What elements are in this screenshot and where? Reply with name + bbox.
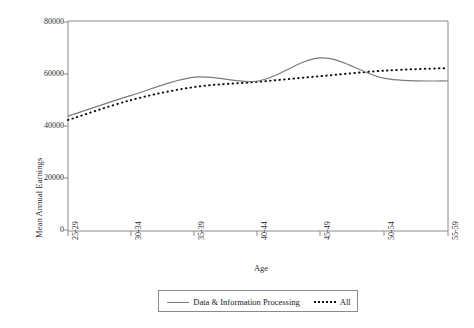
x-tick-label-40-44: 40-44	[261, 221, 269, 240]
x-axis-title: Age	[254, 263, 268, 273]
chart-legend: Data & Information Processing All	[158, 290, 358, 312]
legend-item-data-information-processing: Data & Information Processing	[167, 297, 299, 307]
series-line-data-information-processing	[68, 58, 448, 116]
legend-label-data-information-processing: Data & Information Processing	[193, 297, 299, 307]
dotted-line-swatch-icon	[314, 301, 336, 303]
x-tick-label-50-54: 50-54	[388, 221, 396, 240]
x-tick-label-30-34: 30-34	[135, 221, 143, 240]
legend-label-all: All	[340, 297, 351, 307]
legend-item-all: All	[314, 297, 351, 307]
x-tick-label-55-59: 55-59	[452, 221, 460, 240]
plot-area	[0, 0, 474, 328]
chart-figure: Mean Annual Earnings 80000 60000 40000 2…	[0, 0, 474, 328]
x-tick-label-35-39: 35-39	[198, 221, 206, 240]
solid-line-swatch-icon	[167, 302, 189, 303]
x-tick-label-45-49: 45-49	[324, 221, 332, 240]
series-line-all	[68, 68, 448, 120]
x-axis-title-wrapper: Age	[0, 263, 474, 273]
x-tick-label-25-29: 25-29	[72, 221, 80, 240]
